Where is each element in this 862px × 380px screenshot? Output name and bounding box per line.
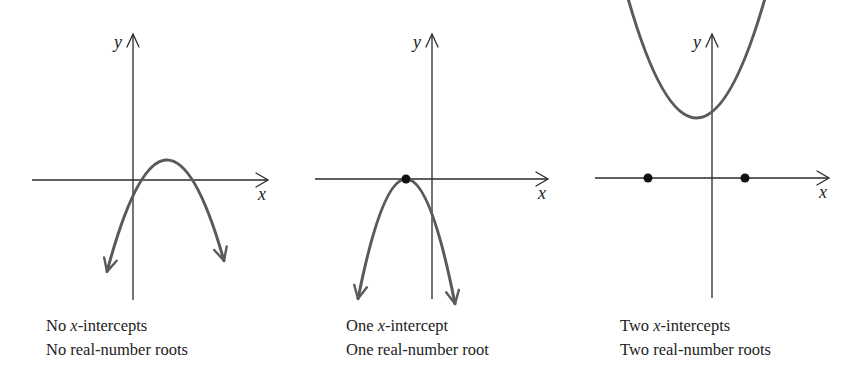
caption-variable: x: [653, 316, 660, 335]
caption-one-intercept: One x-intercept One real-number root: [346, 314, 489, 362]
caption-line-1: One x-intercept: [346, 314, 489, 338]
panel-no-intercepts: x y: [32, 32, 268, 300]
y-axis-label: y: [112, 32, 122, 52]
panel-two-intercepts: x y: [595, 0, 829, 298]
parabola-curve: [611, 0, 781, 118]
caption-line-2: Two real-number roots: [620, 338, 771, 362]
caption-text: -intercepts: [78, 316, 148, 335]
caption-variable: x: [378, 316, 385, 335]
caption-no-intercepts: No x-intercepts No real-number roots: [46, 314, 188, 362]
x-axis-label: x: [537, 183, 546, 203]
parabola-curve: [358, 179, 455, 304]
x-axis-label: x: [257, 184, 266, 204]
panel-one-intercept: x y: [315, 32, 548, 304]
intercept-points: [402, 175, 411, 184]
caption-two-intercepts: Two x-intercepts Two real-number roots: [620, 314, 771, 362]
parabola-curve: [107, 160, 224, 272]
caption-line-2: No real-number roots: [46, 338, 188, 362]
caption-text: No: [46, 316, 70, 335]
caption-text: -intercept: [385, 316, 448, 335]
y-axis-label: y: [411, 32, 421, 52]
x-axis-label: x: [818, 182, 827, 202]
caption-text: Two: [620, 316, 653, 335]
x-intercept-point: [741, 174, 750, 183]
caption-variable: x: [70, 316, 77, 335]
caption-line-1: No x-intercepts: [46, 314, 188, 338]
x-intercept-point: [644, 174, 653, 183]
caption-line-1: Two x-intercepts: [620, 314, 771, 338]
caption-text: -intercepts: [661, 316, 731, 335]
x-intercept-point: [402, 175, 411, 184]
caption-text: One: [346, 316, 378, 335]
y-axis-label: y: [691, 32, 701, 52]
caption-line-2: One real-number root: [346, 338, 489, 362]
